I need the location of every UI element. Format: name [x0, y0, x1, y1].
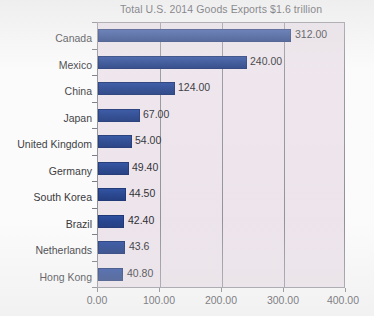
bar-value-brazil: 42.40 — [128, 214, 154, 226]
x-axis-tick — [345, 288, 346, 292]
x-axis-tick — [159, 288, 160, 292]
y-axis-tick — [92, 22, 97, 23]
x-axis-tick — [97, 288, 98, 292]
y-axis-tick — [92, 261, 97, 262]
bar-hong-kong[interactable] — [98, 268, 123, 281]
category-label-germany: Germany — [0, 165, 92, 177]
x-axis-tick — [283, 288, 284, 292]
bar-canada[interactable] — [98, 29, 291, 42]
x-axis-label-300: 300.00 — [253, 294, 313, 306]
x-axis-tick — [221, 288, 222, 292]
category-label-brazil: Brazil — [0, 218, 92, 230]
bar-brazil[interactable] — [98, 215, 124, 228]
bar-value-netherlands: 43.6 — [129, 240, 149, 252]
category-label-netherlands: Netherlands — [0, 244, 92, 256]
y-axis-tick — [92, 234, 97, 235]
bar-value-japan: 67.00 — [143, 108, 169, 120]
y-axis-tick — [92, 128, 97, 129]
y-axis-tick — [92, 208, 97, 209]
bar-netherlands[interactable] — [98, 241, 125, 254]
bar-value-united-kingdom: 54.00 — [135, 134, 161, 146]
bar-value-hong-kong: 40.80 — [127, 267, 153, 279]
x-axis-label-100: 100.00 — [129, 294, 189, 306]
bar-mexico[interactable] — [98, 56, 247, 69]
y-axis-tick — [92, 181, 97, 182]
bar-chart: Total U.S. 2014 Goods Exports $1.6 trill… — [0, 0, 374, 316]
category-label-south-korea: South Korea — [0, 191, 92, 203]
x-axis-label-200: 200.00 — [191, 294, 251, 306]
x-axis-label-400: 400.00 — [313, 294, 373, 306]
bar-value-china: 124.00 — [178, 81, 210, 93]
y-axis-tick — [92, 75, 97, 76]
category-label-canada: Canada — [0, 32, 92, 44]
category-label-mexico: Mexico — [0, 59, 92, 71]
plot-area: 312.00 240.00 124.00 67.00 54.00 49.40 4… — [97, 22, 345, 288]
y-axis-tick — [92, 155, 97, 156]
gridline-300 — [284, 23, 285, 287]
bar-south-korea[interactable] — [98, 188, 126, 201]
bar-value-germany: 49.40 — [132, 161, 158, 173]
bar-value-canada: 312.00 — [295, 28, 327, 40]
bar-united-kingdom[interactable] — [98, 135, 132, 148]
bar-value-mexico: 240.00 — [250, 55, 282, 67]
y-axis-tick — [92, 49, 97, 50]
category-label-hong-kong: Hong Kong — [0, 271, 92, 283]
bar-japan[interactable] — [98, 109, 140, 122]
category-label-japan: Japan — [0, 112, 92, 124]
bar-value-south-korea: 44.50 — [129, 187, 155, 199]
category-label-china: China — [0, 85, 92, 97]
chart-title: Total U.S. 2014 Goods Exports $1.6 trill… — [97, 3, 345, 15]
bar-germany[interactable] — [98, 162, 129, 175]
x-axis-label-0: 0.00 — [67, 294, 127, 306]
bar-china[interactable] — [98, 82, 175, 95]
y-axis-tick — [92, 102, 97, 103]
category-label-united-kingdom: United Kingdom — [0, 138, 92, 150]
